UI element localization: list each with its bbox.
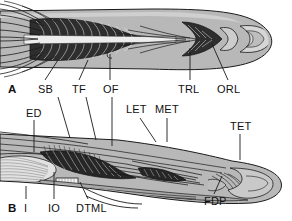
label-i: I xyxy=(24,203,27,214)
label-let: LET xyxy=(126,104,147,115)
label-sb: SB xyxy=(38,84,53,95)
panel-b-id: B xyxy=(8,203,17,215)
anatomical-figure: A SB TF OF TRL ORL ED LET MET TET FDP B … xyxy=(0,0,292,221)
panel-a-id: A xyxy=(8,84,17,96)
label-trl: TRL xyxy=(178,84,199,95)
label-fdp: FDP xyxy=(204,196,227,207)
label-tet: TET xyxy=(230,121,251,132)
leader-let xyxy=(140,118,156,142)
label-ed: ED xyxy=(26,108,42,119)
leader-tf-b xyxy=(86,97,96,140)
label-dtml: DTML xyxy=(76,203,107,214)
label-orl: ORL xyxy=(217,84,240,95)
label-met: MET xyxy=(155,104,179,115)
leader-sb-b xyxy=(58,97,70,138)
label-io: IO xyxy=(48,203,60,214)
label-tf: TF xyxy=(72,84,86,95)
leader-dtml xyxy=(80,182,88,199)
leader-fdp xyxy=(214,176,222,194)
label-of: OF xyxy=(103,84,119,95)
